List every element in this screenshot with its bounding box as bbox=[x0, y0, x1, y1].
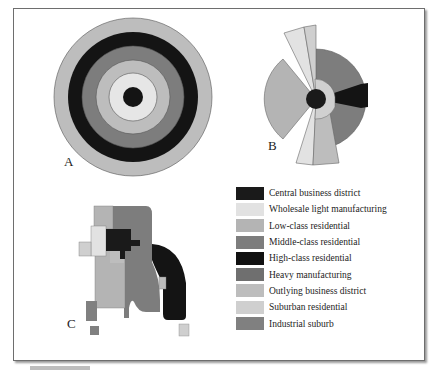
legend-label: Low-class residential bbox=[269, 221, 350, 231]
legend-label: High-class residential bbox=[269, 253, 352, 263]
panel-label-c: C bbox=[67, 316, 76, 332]
legend-label: Central business district bbox=[269, 188, 360, 198]
legend: Central business district Wholesale ligh… bbox=[236, 185, 387, 332]
legend-label: Industrial suburb bbox=[269, 319, 334, 329]
legend-label: Heavy manufacturing bbox=[269, 270, 352, 280]
legend-swatch bbox=[236, 219, 264, 232]
legend-item: Middle-class residential bbox=[236, 234, 387, 250]
legend-label: Middle-class residential bbox=[269, 237, 360, 247]
legend-swatch bbox=[236, 317, 264, 330]
legend-item: High-class residential bbox=[236, 250, 387, 266]
legend-item: Heavy manufacturing bbox=[236, 266, 387, 282]
legend-swatch bbox=[236, 236, 264, 249]
figure-caption-cropped bbox=[30, 366, 90, 370]
legend-label: Wholesale light manufacturing bbox=[269, 204, 387, 214]
legend-item: Suburban residential bbox=[236, 299, 387, 315]
legend-swatch bbox=[236, 252, 264, 265]
legend-item: Industrial suburb bbox=[236, 315, 387, 331]
legend-swatch bbox=[236, 284, 264, 297]
legend-item: Wholesale light manufacturing bbox=[236, 201, 387, 217]
legend-item: Outlying business district bbox=[236, 283, 387, 299]
legend-label: Outlying business district bbox=[269, 286, 366, 296]
legend-item: Low-class residential bbox=[236, 218, 387, 234]
legend-swatch bbox=[236, 187, 264, 200]
legend-item: Central business district bbox=[236, 185, 387, 201]
legend-swatch bbox=[236, 268, 264, 281]
legend-swatch bbox=[236, 203, 264, 216]
legend-swatch bbox=[236, 301, 264, 314]
legend-label: Suburban residential bbox=[269, 302, 347, 312]
